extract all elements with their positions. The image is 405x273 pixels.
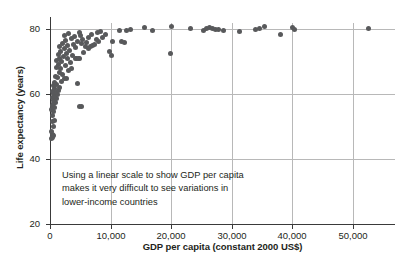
x-tick-mark [292,225,293,229]
y-tick-label: 60 [14,88,40,99]
gridline-vertical [353,23,354,224]
data-point [150,28,155,33]
data-point [94,37,99,42]
data-point [89,32,94,37]
x-axis-title: GDP per capita (constant 2000 US$) [50,241,395,252]
data-point [98,29,103,34]
data-point [188,26,193,31]
data-point [117,28,122,33]
data-point [237,29,242,34]
chart-annotation: Using a linear scale to show GDP per cap… [62,169,277,209]
x-tick-mark [353,225,354,229]
data-point [79,104,84,109]
data-point [221,28,226,33]
x-tick-label: 40,000 [257,230,327,241]
data-point [292,27,297,32]
life-expectancy-gdp-scatter-chart: Life expectancy (years) GDP per capita (… [0,0,405,273]
annotation-line-3: lower-income countries [62,196,277,209]
data-point [110,39,115,44]
data-point [278,32,283,37]
x-tick-mark [171,225,172,229]
data-point [64,76,69,81]
annotation-line-2: makes it very difficult to see variation… [62,182,277,195]
x-tick-label: 50,000 [318,230,388,241]
data-point [142,25,147,30]
data-point [52,118,57,123]
x-tick-label: 20,000 [136,230,206,241]
data-point [122,40,127,45]
gridline-horizontal [50,159,395,160]
y-tick-label: 40 [14,153,40,164]
data-point [109,53,114,58]
y-tick-label: 20 [14,218,40,229]
data-point [67,48,72,53]
x-tick-mark [232,225,233,229]
gridline-vertical [292,23,293,224]
x-axis-line [50,224,395,225]
data-point [51,133,56,138]
gridline-horizontal [50,94,395,95]
cut-off-caption [0,262,405,273]
x-tick-mark [50,225,51,229]
data-point [68,60,73,65]
x-tick-label: 0 [15,230,85,241]
y-tick-label: 80 [14,23,40,34]
data-point [128,27,133,32]
data-point [75,81,80,86]
y-axis-title: Life expectancy (years) [14,28,25,208]
x-tick-mark [111,225,112,229]
data-point [69,66,74,71]
data-point [81,50,86,55]
data-point [168,51,173,56]
data-point [103,32,108,37]
data-point [366,26,371,31]
data-point [51,124,56,129]
data-point [262,24,267,29]
annotation-line-1: Using a linear scale to show GDP per cap… [62,169,277,182]
data-point [63,38,68,43]
data-point [77,30,82,35]
